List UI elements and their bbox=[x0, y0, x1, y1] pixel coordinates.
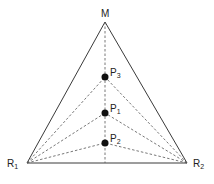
point-p2-dot bbox=[102, 140, 109, 147]
edge-r1-p2 bbox=[27, 143, 105, 163]
point-label-p3: P3 bbox=[110, 67, 121, 79]
vertex-label-r2: R2 bbox=[193, 158, 204, 170]
vertex-label-m: M bbox=[101, 8, 109, 19]
vertex-label-r1: R1 bbox=[7, 158, 18, 170]
point-p3-dot bbox=[102, 74, 109, 81]
edge-r1-p1 bbox=[27, 113, 105, 163]
edge-m-r1 bbox=[27, 22, 105, 163]
point-label-p2: P2 bbox=[110, 133, 121, 145]
point-label-p1: P1 bbox=[110, 103, 121, 115]
triangle-diagram: M R1 R2 P3 P1 P2 bbox=[0, 0, 214, 184]
point-p1-dot bbox=[102, 110, 109, 117]
edge-r1-p3 bbox=[27, 77, 105, 163]
edge-r2-p3 bbox=[105, 77, 187, 163]
edge-r2-p2 bbox=[105, 143, 187, 163]
